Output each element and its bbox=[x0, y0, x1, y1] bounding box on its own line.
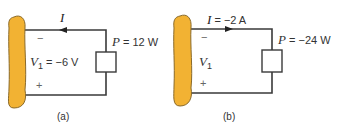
polarity-plus-b: + bbox=[200, 77, 206, 89]
wire-bottom-a bbox=[22, 72, 106, 95]
source-blob-b bbox=[174, 15, 192, 106]
element-box-b bbox=[262, 50, 282, 72]
circuit-b: I = −2 A P = −24 W − V1 + (b) bbox=[174, 12, 332, 122]
source-blob-a bbox=[8, 16, 25, 108]
polarity-minus-b: − bbox=[201, 31, 207, 43]
element-box-a bbox=[96, 52, 116, 72]
current-label-b: I = −2 A bbox=[206, 12, 247, 27]
circuit-a: I P = 12 W − V1 = −6 V + (a) bbox=[8, 10, 158, 122]
power-label-b: P = −24 W bbox=[277, 32, 331, 47]
wire-top-a bbox=[22, 30, 106, 52]
caption-b: (b) bbox=[223, 111, 235, 122]
circuit-figure: I P = 12 W − V1 = −6 V + (a) I = −2 A P … bbox=[0, 0, 340, 127]
current-arrow-right-icon bbox=[225, 26, 233, 32]
caption-a: (a) bbox=[57, 111, 69, 122]
power-label-a: P = 12 W bbox=[111, 34, 159, 49]
polarity-plus-a: + bbox=[36, 79, 42, 91]
polarity-minus-a: − bbox=[37, 32, 43, 44]
current-label-a: I bbox=[59, 10, 65, 25]
current-arrow-left-icon bbox=[59, 27, 67, 33]
voltage-label-a: V1 = −6 V bbox=[30, 54, 79, 71]
voltage-label-b: V1 bbox=[199, 54, 212, 71]
